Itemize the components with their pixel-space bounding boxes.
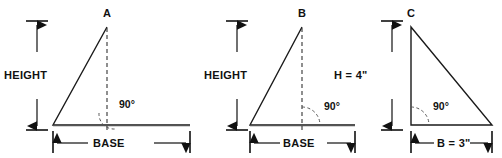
triangle-a-vertex-label: A xyxy=(103,7,111,19)
triangle-b-right-angle-arc xyxy=(302,107,320,125)
triangle-c-height-dimension: H = 4" xyxy=(334,21,403,130)
triangle-b-vertex-label: B xyxy=(298,7,306,19)
triangle-c-sides xyxy=(411,27,492,125)
triangle-b-base-label: BASE xyxy=(283,137,315,149)
triangle-a-height-dimension: HEIGHT xyxy=(4,21,48,130)
diagram-canvas: 90° A HEIGHT BASE xyxy=(0,0,502,158)
triangle-a-sides xyxy=(53,27,190,125)
triangle-c-angle-label: 90° xyxy=(433,100,449,112)
triangle-b-height-dimension: HEIGHT xyxy=(204,21,248,130)
triangle-a-base-label: BASE xyxy=(93,137,125,149)
triangle-b-base-dimension: BASE xyxy=(250,131,355,153)
triangle-c-height-label: H = 4" xyxy=(334,69,368,81)
triangle-a-group: 90° A HEIGHT BASE xyxy=(4,7,190,153)
triangle-a-base-dimension: BASE xyxy=(53,131,190,153)
triangle-b-height-label: HEIGHT xyxy=(204,69,247,81)
triangle-a-angle-label: 90° xyxy=(119,98,135,110)
triangle-c-base-dimension: B = 3" xyxy=(411,131,492,153)
triangle-a-height-label: HEIGHT xyxy=(4,69,47,81)
triangle-c-base-label: B = 3" xyxy=(437,137,471,149)
triangle-b-group: 90° B HEIGHT BASE xyxy=(204,7,355,153)
triangle-diagram-figure: 90° A HEIGHT BASE xyxy=(0,0,502,158)
triangle-c-right-angle-arc xyxy=(411,107,429,125)
triangle-c-vertex-label: C xyxy=(407,7,415,19)
triangle-c-group: 90° C H = 4" B = 3" xyxy=(334,7,492,153)
triangle-b-angle-label: 90° xyxy=(324,100,340,112)
